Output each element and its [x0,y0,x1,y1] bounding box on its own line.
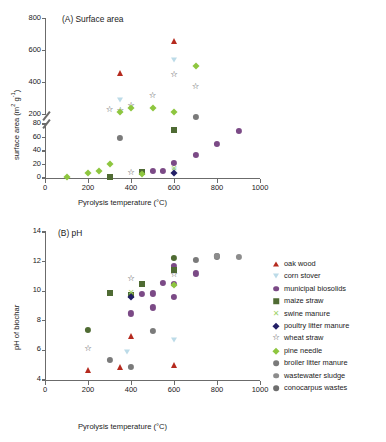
legend-label-maize_straw: maize straw [284,295,323,307]
panel-a-x-tick-label: 0 [31,184,59,192]
panel-a-x-tick-label: 1000 [246,184,274,192]
legend-marker-swine_manure: ✕ [272,310,279,316]
legend-label-poultry_litter_manure: poultry litter manure [284,320,349,332]
axis-tick [42,150,45,151]
axis-tick [42,114,45,115]
panel-a-y-tick-label: 80 [15,119,41,127]
legend-item-swine_manure[interactable]: ✕swine manure [272,308,386,320]
panel-b-x-tick-label: 200 [74,386,102,394]
panel-a-surface-area: (A) Surface area surface area (m2 g-1) P… [0,0,270,212]
data-point-corn_stover [171,58,177,63]
axis-tick [42,123,45,124]
legend-item-wheat_straw[interactable]: ☆wheat straw [272,332,386,344]
legend-item-wastewater_sludge[interactable]: wastewater sludge [272,370,386,382]
axis-tick [42,261,45,262]
axis-tick [42,291,45,292]
legend-marker-wastewater_sludge [273,373,279,379]
legend-marker-broiler_litter_manure [273,360,279,366]
panel-a-x-tick-label: 400 [117,184,145,192]
panel-a-y-tick-label: 60 [15,133,41,141]
axis-tick [42,231,45,232]
legend-item-broiler_litter_manure[interactable]: broiler litter manure [272,357,386,369]
panel-b-x-tick-label: 800 [203,386,231,394]
legend-label-pine_needle: pine needle [284,345,322,357]
legend-label-oak_wood: oak wood [284,258,316,270]
figure-root: (A) Surface area surface area (m2 g-1) P… [0,0,386,442]
axis-tick [42,177,45,178]
legend-label-wheat_straw: wheat straw [284,332,323,344]
axis-tick [42,379,45,380]
legend-marker-wheat_straw: ☆ [272,335,280,342]
panel-a-y-tick-label: 800 [15,14,41,22]
data-point-maize_straw [107,290,113,296]
data-point-oak_wood [117,70,123,76]
legend-item-municipal_biosolids[interactable]: municipal biosolids [272,283,386,295]
axis-tick [42,320,45,321]
legend-item-pine_needle[interactable]: pine needle [272,345,386,357]
legend-label-conocarpus_wastes: conocarpus wastes [284,382,347,394]
panel-b-y-tick-label: 6 [17,345,41,353]
panel-b-x-axis-title: Pyrolysis temperature (°C) [78,422,167,431]
panel-a-y-axis-upper [45,18,46,114]
axis-tick [42,137,45,138]
panel-a-y-tick-label: 200 [15,110,41,118]
data-point-wheat_straw: ☆ [191,83,200,91]
panel-b-y-tick-label: 14 [17,227,41,235]
axis-tick [42,164,45,165]
legend-item-conocarpus_wastes[interactable]: conocarpus wastes [272,382,386,394]
panel-a-y-tick-label: 600 [15,46,41,54]
panel-b-y-tick-label: 4 [17,375,41,383]
axis-tick [42,82,45,83]
panel-a-x-tick-label: 800 [203,184,231,192]
data-point-oak_wood [171,38,177,44]
panel-a-y-tick-label: 40 [15,146,41,154]
panel-b-y-axis-title: pH of biochar [12,305,21,350]
axis-tick [42,50,45,51]
panel-b-x-tick-label: 600 [160,386,188,394]
data-point-oak_wood [85,367,91,373]
legend-label-corn_stover: corn stover [284,270,321,282]
data-point-wheat_straw: ☆ [105,106,114,114]
legend-label-swine_manure: swine manure [284,308,330,320]
panel-b-x-tick-label: 0 [31,386,59,394]
data-point-wheat_straw: ☆ [170,71,179,79]
legend-item-oak_wood[interactable]: oak wood [272,258,386,270]
legend-item-poultry_litter_manure[interactable]: poultry litter manure [272,320,386,332]
legend-marker-conocarpus_wastes [273,385,279,391]
legend-marker-municipal_biosolids [273,286,279,292]
panel-a-y-tick-label: 400 [15,78,41,86]
data-point-wheat_straw: ☆ [84,345,93,353]
panel-b-x-tick-label: 1000 [246,386,274,394]
data-point-pine_needle [63,174,70,181]
data-point-maize_straw [139,281,145,287]
panel-b-ph: (B) pH pH of biochar Pyrolysis temperatu… [0,214,270,442]
legend-item-maize_straw[interactable]: maize straw [272,295,386,307]
legend-label-wastewater_sludge: wastewater sludge [284,370,345,382]
legend-label-municipal_biosolids: municipal biosolids [284,283,346,295]
panel-a-x-axis [45,178,260,179]
panel-b-x-axis [45,380,260,381]
data-point-wheat_straw: ☆ [127,169,136,177]
data-point-corn_stover [124,349,130,354]
data-point-corn_stover [171,338,177,343]
panel-a-y-tick-label: 20 [15,160,41,168]
legend-item-corn_stover[interactable]: corn stover [272,270,386,282]
legend-marker-pine_needle [273,347,279,353]
data-point-oak_wood [128,333,134,339]
panel-a-y-tick-label: 0 [15,173,41,181]
panel-b-y-tick-label: 10 [17,286,41,294]
panel-b-x-tick-label: 400 [117,386,145,394]
data-point-oak_wood [171,362,177,368]
panel-b-y-tick-label: 12 [17,257,41,265]
axis-tick [42,18,45,19]
data-point-wheat_straw: ☆ [127,275,136,283]
legend-label-broiler_litter_manure: broiler litter manure [284,357,348,369]
data-point-wheat_straw: ☆ [170,271,179,279]
panel-b-y-axis [45,232,46,380]
panel-b-y-tick-label: 8 [17,316,41,324]
data-point-maize_straw [171,127,177,133]
legend: oak woodcorn stovermunicipal biosolidsma… [272,258,386,394]
legend-marker-poultry_litter_manure [273,323,279,329]
data-point-maize_straw [107,174,113,180]
legend-marker-maize_straw [273,298,279,304]
